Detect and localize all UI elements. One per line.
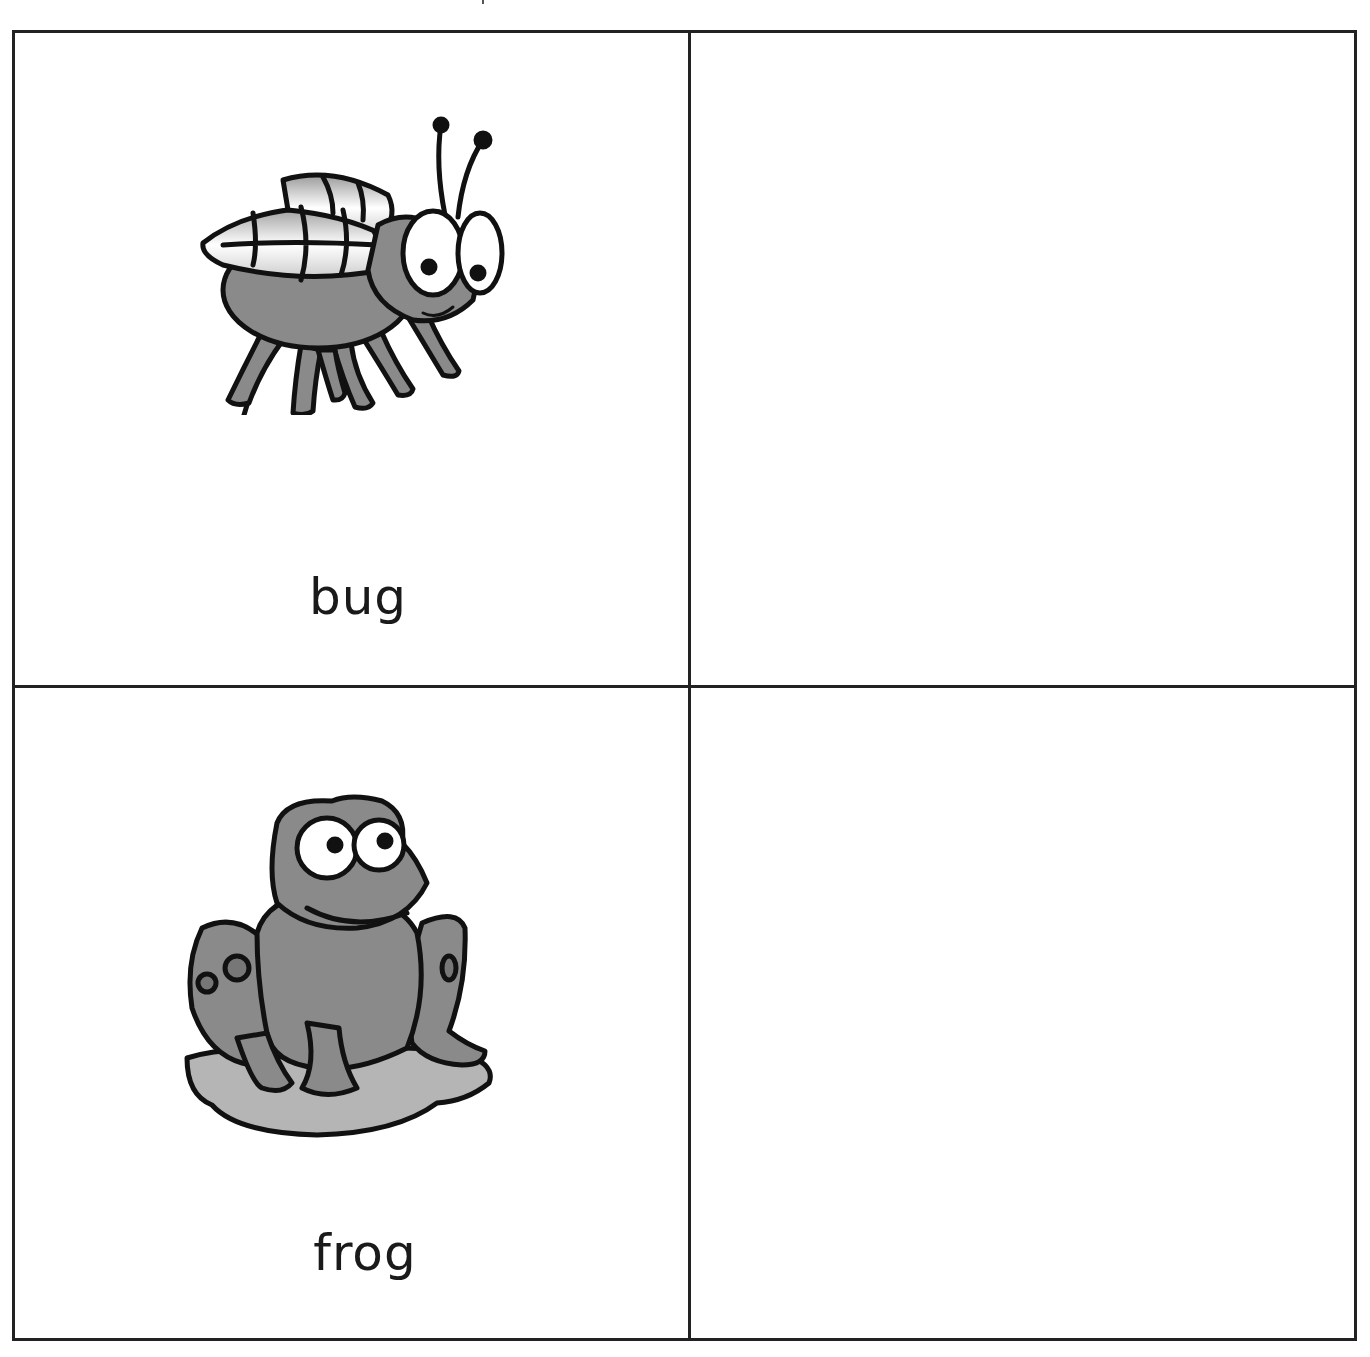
bug-icon (183, 95, 513, 415)
cell-blank-top (691, 33, 1354, 685)
cell-blank-bottom (691, 688, 1354, 1338)
picture-word-grid: bug (12, 30, 1357, 1341)
word-label: frog (15, 1224, 715, 1282)
word-label: bug (15, 568, 695, 626)
top-mark (482, 0, 484, 4)
cell-frog: frog (15, 688, 688, 1338)
cell-bug: bug (15, 33, 688, 685)
frog-icon (167, 783, 507, 1153)
